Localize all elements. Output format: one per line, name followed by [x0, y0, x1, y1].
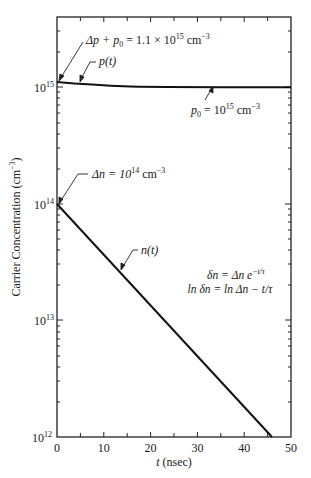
annotation-dp-plus-p0: Δp + p0 = 1.1 × 1015 cm−3: [85, 32, 210, 49]
y-tick-label-13: 1013: [34, 313, 54, 328]
x-tick-label-20: 20: [145, 441, 157, 455]
equation-decay: δn = Δn e−t/τ: [207, 267, 266, 281]
x-ticks: [80, 17, 267, 437]
x-tick-label-10: 10: [98, 441, 110, 455]
x-axis-label: t (nsec): [156, 455, 192, 469]
carrier-concentration-chart: 1015 1014 1013 1012 0 10 20 30 40 50 t (…: [0, 0, 311, 478]
annotation-n-t: n(t): [141, 243, 158, 257]
x-tick-label-40: 40: [238, 441, 250, 455]
plot-frame: [57, 17, 291, 437]
x-tick-label-50: 50: [285, 441, 297, 455]
equation-log: ln δn = ln Δn − t/τ: [188, 283, 274, 295]
annotation-p0: p0 = 1015 cm−3: [190, 102, 260, 119]
x-tick-label-0: 0: [54, 441, 60, 455]
series-n-t: [57, 204, 272, 437]
series-p-t: [57, 82, 291, 87]
annotation-dn: Δn = 1014 cm−3: [91, 166, 165, 181]
y-tick-label-14: 1014: [34, 197, 54, 212]
annotation-arrows: [59, 42, 213, 270]
x-tick-label-30: 30: [191, 441, 203, 455]
y-tick-label-15: 1015: [34, 80, 54, 95]
y-axis-label: Carrier Concentration (cm−3): [8, 157, 23, 296]
annotation-p-t: p(t): [98, 54, 116, 68]
y-tick-label-12: 1012: [32, 430, 52, 445]
